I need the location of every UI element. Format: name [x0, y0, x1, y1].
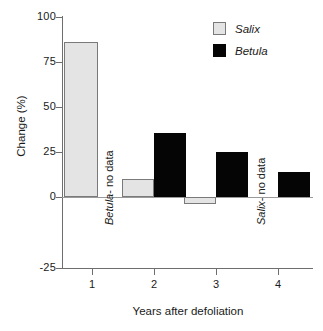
y-tick-label-25: 25	[22, 146, 56, 157]
annotation-salix-species: Salix	[255, 201, 267, 225]
bar-salix-year-1	[64, 42, 98, 197]
y-tick-label-100: 100	[22, 11, 56, 22]
annotation-betula-species: Betula	[103, 194, 115, 225]
y-tick-label-neg25: -25	[22, 262, 56, 273]
bar-chart: Salix Betula 100 75 50 25 0 -25 1 2 3 4	[0, 0, 323, 331]
annotation-betula-rest: - no data	[103, 150, 115, 193]
x-tick-label-1: 1	[80, 279, 104, 290]
y-tick-100	[56, 17, 62, 18]
x-tick-3	[216, 269, 217, 275]
y-tick-label-50: 50	[22, 101, 56, 112]
y-tick-50	[56, 107, 62, 108]
y-tick-75	[56, 62, 62, 63]
x-tick-4	[278, 269, 279, 275]
bar-betula-year-3	[216, 152, 248, 197]
legend-item-salix: Salix	[213, 22, 268, 35]
bar-betula-year-4	[278, 172, 310, 197]
x-tick-1	[92, 269, 93, 275]
legend-item-betula: Betula	[213, 44, 268, 57]
x-tick-label-4: 4	[266, 279, 290, 290]
legend-label-betula: Betula	[235, 45, 268, 57]
x-axis-line	[62, 268, 313, 269]
legend-swatch-betula	[213, 44, 226, 57]
annotation-salix-no-data: Salix- no data	[256, 158, 267, 225]
legend-swatch-salix	[213, 22, 226, 35]
bar-salix-year-2	[122, 179, 154, 197]
y-tick-0	[56, 197, 62, 198]
bar-salix-year-3	[184, 197, 216, 204]
y-tick-25	[56, 152, 62, 153]
x-tick-label-2: 2	[142, 279, 166, 290]
y-axis-title: Change (%)	[15, 81, 27, 171]
chart-legend: Salix Betula	[213, 22, 268, 66]
annotation-salix-rest: - no data	[255, 158, 267, 201]
y-tick-label-0: 0	[22, 191, 56, 202]
annotation-betula-no-data: Betula- no data	[104, 150, 115, 225]
y-axis-line	[62, 16, 63, 269]
y-tick-label-75: 75	[22, 56, 56, 67]
x-axis-title: Years after defoliation	[63, 305, 313, 317]
x-tick-label-3: 3	[204, 279, 228, 290]
bar-betula-year-2	[154, 133, 186, 197]
y-tick-neg25	[56, 268, 62, 269]
legend-label-salix: Salix	[235, 23, 260, 35]
x-tick-2	[154, 269, 155, 275]
